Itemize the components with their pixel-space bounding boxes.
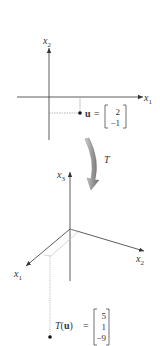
right-bracket <box>123 105 126 128</box>
point-u <box>78 111 82 115</box>
svg-text:=: = <box>94 108 100 119</box>
x2-axis-label: x2 <box>42 35 51 49</box>
vector-Tu-label: T(u) = 5 1 −9 <box>55 309 109 345</box>
x1-axis-label: x1 <box>143 92 152 106</box>
svg-text:1: 1 <box>102 322 107 332</box>
svg-text:−1: −1 <box>110 118 120 128</box>
x3-axis-label: x3 <box>56 169 65 183</box>
top-plot: x2 x1 u = 2 −1 <box>17 35 152 140</box>
point-Tu <box>48 335 52 339</box>
svg-text:2: 2 <box>116 107 121 117</box>
svg-text:5: 5 <box>102 311 107 321</box>
vector-u-label: u = 2 −1 <box>85 105 126 128</box>
x2-axis-label: x2 <box>135 253 144 267</box>
projection-guide <box>44 229 78 256</box>
svg-text:u: u <box>85 108 91 119</box>
x1-axis-label: x1 <box>13 268 22 282</box>
transform-arrow: T <box>85 138 111 190</box>
x1-axis <box>26 229 70 266</box>
left-bracket <box>105 105 108 128</box>
svg-text:−9: −9 <box>96 333 106 343</box>
svg-text:=: = <box>83 320 89 331</box>
transform-label: T <box>104 154 111 165</box>
svg-text:T(u): T(u) <box>55 320 73 332</box>
right-bracket <box>106 309 109 345</box>
curved-arrow-icon <box>85 138 99 190</box>
bottom-plot: x3 x2 x1 T(u) = 5 1 −9 <box>13 169 144 345</box>
linear-transformation-diagram: x2 x1 u = 2 −1 T x3 x2 x1 T <box>0 0 160 346</box>
x2-axis <box>70 229 144 251</box>
